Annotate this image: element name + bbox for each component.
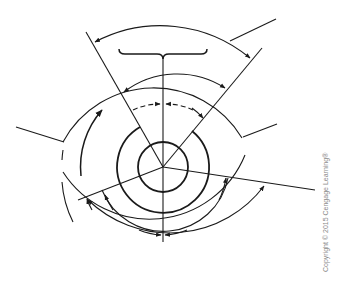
outer-circle-arc-left: [62, 150, 63, 160]
outer-lower-arc-2: [62, 182, 73, 222]
leader-line-right: [243, 124, 277, 137]
top-dimension-arc: [95, 26, 250, 58]
inner-dimension-arc-right: [166, 104, 193, 110]
sector-diagram: [0, 0, 341, 293]
leader-line-top-right: [230, 19, 276, 41]
copyright-notice: Copyright © 2015 Cengage Learning®: [322, 153, 329, 272]
inner-dimension-arc-right-end: [192, 108, 203, 118]
radial-line-upper-left: [86, 32, 163, 167]
leader-line-left: [16, 127, 64, 142]
top-brace: [119, 49, 207, 59]
inner-dimension-arc-left: [133, 104, 160, 110]
rotation-arrow-left: [81, 110, 102, 176]
radial-line-upper-right: [163, 48, 262, 167]
outer-circle-arc-top: [63, 88, 242, 142]
lower-left-arrow-1: [105, 195, 113, 210]
outer-circle-arc-bottom: [63, 155, 245, 219]
